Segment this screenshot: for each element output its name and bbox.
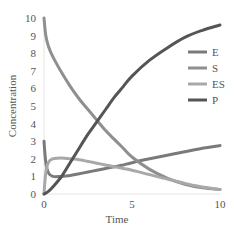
y-tick-label: 6 <box>31 82 37 94</box>
y-tick-label: 2 <box>31 153 37 165</box>
chart-canvas: 012345678910 0510 Time Concentration ESE… <box>0 0 234 236</box>
x-axis-label: Time <box>106 213 129 225</box>
y-tick-label: 0 <box>31 188 37 200</box>
legend-label: P <box>212 94 218 106</box>
legend: ESESP <box>188 46 225 106</box>
series-line-p <box>44 25 220 194</box>
y-tick-label: 7 <box>31 65 37 77</box>
y-tick-label: 8 <box>31 47 37 59</box>
y-tick-label: 4 <box>31 118 37 130</box>
legend-item-p: P <box>188 94 218 106</box>
y-tick-label: 9 <box>31 30 37 42</box>
x-tick-label: 5 <box>129 198 135 210</box>
y-tick-label: 10 <box>25 12 37 24</box>
series-lines <box>44 18 220 194</box>
legend-item-s: S <box>188 62 218 74</box>
y-axis-ticks: 012345678910 <box>25 12 37 200</box>
legend-label: ES <box>212 78 225 90</box>
y-tick-label: 3 <box>31 135 37 147</box>
legend-item-es: ES <box>188 78 225 90</box>
y-tick-label: 1 <box>31 170 37 182</box>
x-axis-ticks: 0510 <box>41 198 226 210</box>
legend-label: S <box>212 62 218 74</box>
legend-label: E <box>212 46 219 58</box>
x-tick-label: 10 <box>215 198 227 210</box>
legend-item-e: E <box>188 46 219 58</box>
y-tick-label: 5 <box>31 100 37 112</box>
y-axis-label: Concentration <box>6 74 18 137</box>
x-tick-label: 0 <box>41 198 47 210</box>
